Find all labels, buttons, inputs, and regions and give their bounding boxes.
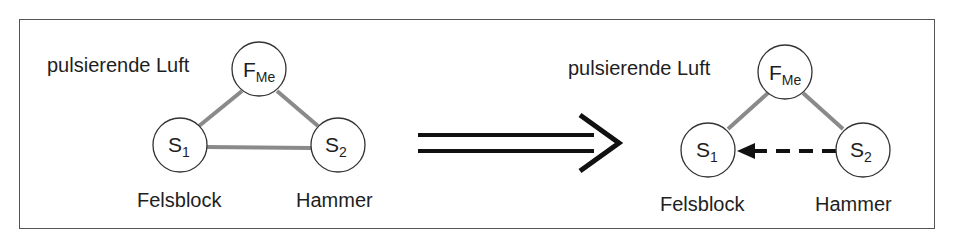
edge-fme-s1 [728,93,768,129]
felsblock-label-left: Felsblock [137,189,222,211]
left-diagram: FMe S1 S2 pulsierende Luft Felsblock Ham… [47,42,373,211]
hammer-label-right: Hammer [815,193,892,215]
felsblock-label-right: Felsblock [660,193,745,215]
hammer-label-left: Hammer [296,189,373,211]
edge-s1-s2 [207,147,311,148]
right-diagram: FMe S1 S2 pulsierende Luft Felsblock Ham… [568,45,892,215]
implies-arrow-icon [418,115,619,171]
arrowhead-icon [737,143,755,159]
edge-fme-s2 [277,91,318,126]
diagram-canvas: FMe S1 S2 pulsierende Luft Felsblock Ham… [0,0,954,250]
edge-fme-s1 [199,91,242,126]
edge-fme-s2 [803,93,843,129]
context-label-left: pulsierende Luft [47,54,190,76]
context-label-right: pulsierende Luft [568,57,711,79]
